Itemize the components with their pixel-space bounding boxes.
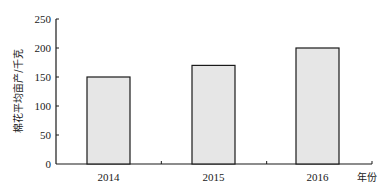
bar-2014 bbox=[87, 77, 130, 164]
y-axis: 050100150200250 bbox=[35, 13, 60, 170]
x-tick-label: 2016 bbox=[307, 171, 330, 183]
bar-2016 bbox=[296, 48, 339, 164]
y-tick-label: 250 bbox=[35, 13, 52, 25]
y-tick-label: 200 bbox=[35, 42, 52, 54]
y-tick-label: 0 bbox=[46, 158, 52, 170]
y-tick-label: 50 bbox=[40, 129, 52, 141]
x-axis-title: 年份 bbox=[357, 171, 377, 183]
y-axis-title: 棉花平均亩产/千克 bbox=[12, 49, 24, 132]
y-tick-label: 100 bbox=[35, 100, 52, 112]
y-tick-label: 150 bbox=[35, 71, 52, 83]
bar-2015 bbox=[192, 65, 235, 164]
x-tick-label: 2014 bbox=[98, 171, 121, 183]
bar-chart: 050100150200250 201420152016 棉花平均亩产/千克 年… bbox=[0, 0, 384, 192]
bars bbox=[87, 48, 339, 164]
x-tick-label: 2015 bbox=[203, 171, 226, 183]
